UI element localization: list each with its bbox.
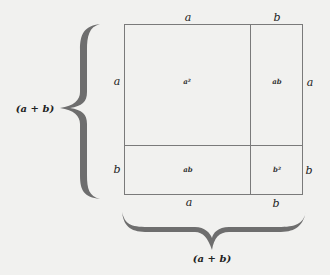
bottom-label-a: a (186, 197, 193, 208)
left-curly-brace-icon (60, 24, 100, 199)
bottom-brace-label: (a + b) (193, 253, 231, 264)
cell-bottom-ab: ab (183, 166, 192, 173)
diagram-canvas (0, 0, 330, 275)
bottom-label-b: b (272, 198, 279, 209)
left-brace-label: (a + b) (16, 103, 54, 114)
cell-a-squared: a² (183, 78, 191, 85)
top-label-b: b (273, 12, 280, 23)
right-label-b: b (305, 165, 312, 176)
top-label-a: a (185, 12, 192, 23)
cell-top-ab: ab (272, 78, 281, 85)
left-label-a: a (114, 76, 121, 87)
bottom-curly-brace-icon (122, 212, 306, 250)
right-label-a: a (307, 77, 314, 88)
cell-b-squared: b² (273, 166, 281, 173)
left-label-b: b (113, 164, 120, 175)
